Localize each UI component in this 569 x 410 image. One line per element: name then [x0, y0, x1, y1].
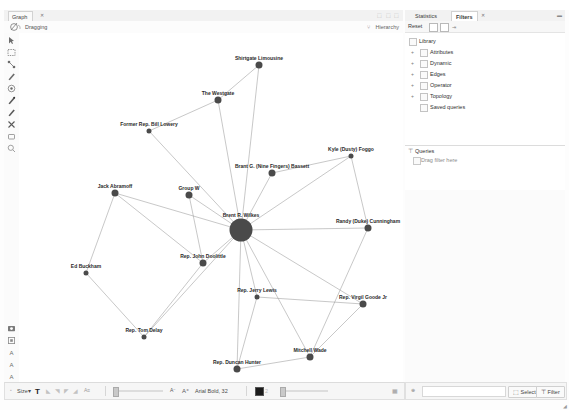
graph-edge[interactable] — [241, 228, 368, 230]
tree-item-attributes[interactable]: Attributes — [430, 48, 453, 57]
graph-edge[interactable] — [86, 273, 144, 337]
tab-filters-close-icon[interactable]: ✕ — [481, 12, 485, 19]
tree-expander[interactable]: + — [411, 70, 414, 79]
tab-graph-close-icon[interactable]: ✕ — [40, 12, 44, 19]
graph-node[interactable] — [256, 62, 263, 69]
grid-toggle-icon[interactable]: ▦ — [392, 387, 398, 394]
graph-edge[interactable] — [218, 65, 259, 100]
settings-tool[interactable] — [6, 335, 17, 346]
shortest-path-tool[interactable] — [6, 59, 17, 70]
rectangle-select-tool[interactable] — [6, 47, 17, 58]
tree-folder-icon — [420, 93, 428, 101]
graph-edge[interactable] — [310, 228, 368, 357]
grid-view-icon[interactable] — [440, 23, 449, 32]
label-opacity-knob[interactable] — [280, 387, 286, 397]
label-size-slider-knob[interactable] — [113, 387, 119, 397]
label-size-a-tool[interactable]: A — [6, 347, 17, 358]
graph-bottom-toolbar: ◦ Size ▾ T ◣ ◥ ◤ ◢ A≡ A⁻ A⁺ Arial Bold, … — [4, 382, 405, 400]
resize-grip-icon[interactable]: ◢ — [563, 403, 567, 409]
screenshot-tool[interactable] — [6, 323, 17, 334]
hierarchy-label[interactable]: Hierarchy — [375, 24, 399, 30]
graph-node[interactable] — [215, 97, 222, 104]
graph-edge[interactable] — [218, 100, 241, 230]
label-size-c-tool[interactable]: A — [6, 371, 17, 382]
graph-edge[interactable] — [115, 193, 203, 263]
painter-tool[interactable] — [6, 71, 17, 82]
graph-edge[interactable] — [149, 100, 218, 131]
tree-item-saved-queries[interactable]: Saved queries — [430, 103, 465, 112]
graph-node[interactable] — [360, 301, 367, 308]
graph-edge[interactable] — [237, 297, 257, 369]
graph-edge[interactable] — [149, 131, 241, 230]
label-size-slider — [113, 390, 163, 392]
eraser-tool[interactable] — [6, 131, 17, 142]
graph-node[interactable] — [234, 366, 241, 373]
graph-edge[interactable] — [86, 193, 115, 273]
graph-node[interactable] — [112, 190, 119, 197]
increase-font-icon: A⁺ — [182, 387, 189, 394]
list-view-icon[interactable] — [429, 23, 438, 32]
tree-folder-icon — [420, 82, 428, 90]
graph-edge[interactable] — [189, 195, 203, 263]
filters-library-tree[interactable]: Library+Attributes+Dynamic+Edges+Operato… — [405, 33, 565, 146]
globe-icon[interactable]: ⊕ — [411, 387, 415, 393]
tab-statistics-label: Statistics — [415, 13, 437, 19]
right-panel-collapse-icon[interactable]: ▬ — [557, 12, 562, 18]
graph-tabbar-window-glyphs[interactable]: ⬚ ⬚ ⬚ — [377, 12, 400, 18]
tree-expander[interactable]: + — [411, 81, 414, 90]
graph-edge[interactable] — [257, 297, 363, 304]
graph-edge[interactable] — [310, 304, 363, 357]
graph-edge[interactable] — [241, 230, 310, 357]
graph-edge[interactable] — [237, 357, 310, 369]
graph-node[interactable] — [307, 354, 314, 361]
graph-node[interactable] — [186, 192, 193, 199]
graph-edge[interactable] — [237, 230, 241, 369]
graph-edge[interactable] — [144, 230, 241, 337]
graph-node[interactable] — [365, 225, 372, 232]
graph-node[interactable] — [269, 170, 276, 177]
tree-item-topology[interactable]: Topology — [430, 92, 452, 101]
font-mode-label[interactable]: Size — [17, 388, 28, 394]
graph-edge[interactable] — [144, 263, 203, 337]
font-mode-arrow-icon[interactable]: ▾ — [28, 388, 31, 394]
export-arrow-icon[interactable]: ⇥ — [452, 24, 456, 30]
graph-node[interactable] — [147, 129, 152, 134]
tree-expander[interactable]: + — [411, 59, 414, 68]
graph-node[interactable] — [84, 271, 89, 276]
graph-edge[interactable] — [241, 65, 259, 230]
graph-node[interactable] — [255, 295, 260, 300]
text-icon[interactable]: T — [35, 387, 40, 396]
filter-button[interactable]: ⊤ Filter — [536, 386, 565, 398]
queries-filter-icon: ⊤ — [408, 148, 413, 154]
font-value-label[interactable]: Arial Bold, 32 — [195, 388, 228, 394]
queries-drop-hint[interactable]: Drag filter here — [421, 157, 457, 163]
heatmap-tool[interactable] — [6, 83, 17, 94]
edge-pencil-tool[interactable] — [6, 107, 17, 118]
graph-edge[interactable] — [272, 156, 351, 173]
label-size-b-tool[interactable]: A — [6, 359, 17, 370]
tree-expander[interactable]: + — [411, 48, 414, 57]
tree-item-edges[interactable]: Edges — [430, 70, 446, 79]
magnifier-tool[interactable] — [6, 143, 17, 154]
graph-edge[interactable] — [115, 193, 241, 230]
graph-canvas[interactable]: Brent R. WilkesShirtgate LimousineThe We… — [19, 33, 403, 382]
graph-edge[interactable] — [241, 230, 363, 304]
graph-node[interactable] — [142, 335, 147, 340]
brush-tool[interactable] — [6, 119, 17, 130]
node-pencil-tool[interactable] — [6, 95, 17, 106]
tree-item-library[interactable]: Library — [419, 37, 436, 46]
tab-statistics[interactable]: Statistics — [411, 11, 441, 21]
reset-button[interactable]: Reset — [408, 23, 422, 29]
graph-node[interactable] — [230, 219, 253, 242]
graph-panel: Graph ✕ ⬚ ⬚ ⬚ Dragging ⑂ Hierarchy — [4, 10, 403, 382]
tree-item-operator[interactable]: Operator — [430, 81, 452, 90]
tree-item-dynamic[interactable]: Dynamic — [430, 59, 451, 68]
pointer-tool[interactable] — [6, 35, 17, 46]
tree-expander[interactable]: + — [411, 92, 414, 101]
graph-edge[interactable] — [241, 156, 351, 230]
graph-node[interactable] — [200, 260, 207, 267]
graph-node[interactable] — [349, 154, 354, 159]
label-color-swatch[interactable] — [255, 387, 264, 396]
dragging-icon[interactable] — [10, 22, 22, 32]
graph-edge[interactable] — [351, 156, 368, 228]
